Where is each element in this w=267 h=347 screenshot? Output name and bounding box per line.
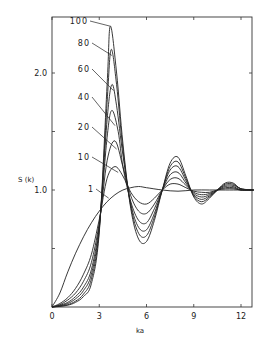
x-tick-label: 9	[191, 312, 196, 321]
series-line-60	[52, 84, 254, 307]
y-axis-label: S (k)	[18, 176, 34, 184]
series-line-80	[52, 49, 254, 307]
x-tick-label: 6	[144, 312, 149, 321]
plot-border	[52, 17, 252, 307]
y-tick-label: 2.0	[34, 69, 47, 78]
x-axis-label: ka	[136, 327, 144, 335]
series-label-60: 60	[78, 65, 90, 74]
x-tick-label: 0	[49, 312, 54, 321]
leader-line-100	[90, 21, 110, 26]
series-label-10: 10	[78, 153, 90, 162]
series-label-40: 40	[78, 93, 90, 102]
y-tick-label: 1.0	[34, 186, 47, 195]
series-label-80: 80	[78, 39, 90, 48]
series-label-1: 1	[88, 185, 94, 194]
x-tick-label: 3	[97, 312, 102, 321]
leader-line-60	[92, 69, 113, 91]
series-label-100: 100	[70, 17, 88, 26]
x-tick-label: 12	[236, 312, 246, 321]
chart: 0369121.02.0 10080604020101 S (k) ka	[0, 0, 267, 347]
series-labels: 10080604020101	[70, 17, 118, 198]
series-line-20	[52, 141, 254, 307]
series-label-20: 20	[78, 123, 90, 132]
plot-frame	[52, 17, 252, 307]
